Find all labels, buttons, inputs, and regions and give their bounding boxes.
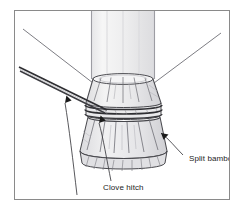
label-split-bamboo: Split bamboo bbox=[189, 154, 230, 163]
figure-canvas: Split bamboo Clove hitch Bridle (rear le… bbox=[0, 0, 246, 220]
label-clove-hitch: Clove hitch bbox=[103, 183, 144, 192]
figure-frame: Split bamboo Clove hitch Bridle (rear le… bbox=[14, 10, 230, 200]
label-bridle-rear-leg: Bridle (rear leg) bbox=[75, 198, 132, 200]
split-bamboo-skirt bbox=[80, 117, 167, 171]
split-bamboo-collar bbox=[86, 74, 161, 109]
bamboo-pole bbox=[91, 11, 155, 79]
illustration bbox=[15, 11, 229, 199]
